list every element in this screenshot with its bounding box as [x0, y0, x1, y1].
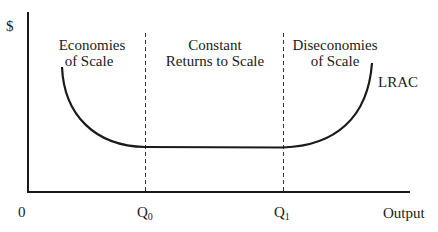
x-axis-label: Output [383, 205, 425, 221]
q1-letter: Q [274, 204, 285, 220]
lrac-label: LRAC [378, 74, 418, 90]
q1-subscript: 1 [285, 211, 290, 222]
region-diseconomies-line2: of Scale [290, 53, 380, 69]
region-constant-line1: Constant [150, 37, 280, 53]
origin-label: 0 [18, 204, 26, 220]
region-economies-line2: of Scale [36, 53, 142, 69]
lrac-curve [62, 63, 372, 148]
region-diseconomies-label: Diseconomies of Scale [290, 37, 380, 69]
region-diseconomies-line1: Diseconomies [290, 37, 380, 53]
region-constant-line2: Returns to Scale [150, 53, 280, 69]
q1-tick-label: Q1 [274, 204, 290, 225]
y-axis-label: $ [6, 18, 14, 34]
region-constant-label: Constant Returns to Scale [150, 37, 280, 69]
lrac-diagram [0, 0, 438, 232]
q0-letter: Q [137, 204, 148, 220]
q0-tick-label: Q0 [137, 204, 153, 225]
region-economies-label: Economies of Scale [42, 37, 142, 69]
q0-subscript: 0 [148, 211, 153, 222]
region-economies-line1: Economies [42, 37, 142, 53]
